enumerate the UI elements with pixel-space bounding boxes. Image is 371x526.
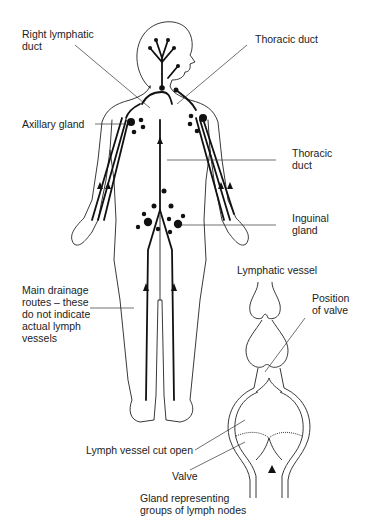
label-gland-representing: Gland representing groups of lymph nodes (140, 492, 246, 516)
label-lymphatic-vessel: Lymphatic vessel (237, 264, 317, 276)
label-thoracic-duct-mid: Thoracic duct (292, 147, 332, 171)
label-main-drainage: Main drainage routes – these do not indi… (22, 284, 90, 344)
label-axillary-gland: Axillary gland (22, 118, 84, 130)
label-inguinal-gland: Inguinal gland (292, 212, 329, 236)
label-position-of-valve: Position of valve (312, 292, 349, 316)
gland-dots (127, 38, 207, 234)
label-right-lymphatic-duct: Right lymphatic duct (22, 28, 94, 52)
label-valve: Valve (172, 470, 198, 482)
label-thoracic-duct-top: Thoracic duct (255, 33, 318, 45)
label-lymph-vessel-cut-open: Lymph vessel cut open (86, 444, 193, 456)
